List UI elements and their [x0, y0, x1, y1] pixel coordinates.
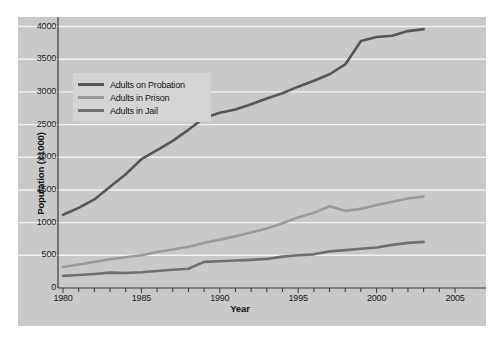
legend-swatch-icon	[78, 83, 104, 86]
legend-item: Adults in Jail	[78, 104, 205, 117]
axis-lines	[58, 17, 486, 288]
y-tick-label-3500: 3500	[10, 53, 56, 63]
x-tick-label-2000: 2000	[357, 293, 397, 303]
x-axis-title: Year	[180, 303, 300, 314]
y-tick-label-3000: 3000	[10, 86, 56, 96]
y-tick-label-0: 0	[10, 282, 56, 292]
legend-item-label: Adults on Probation	[110, 80, 185, 90]
y-tick-label-4000: 4000	[10, 21, 56, 31]
legend-item-label: Adults in Jail	[110, 106, 158, 116]
x-tick-label-1985: 1985	[121, 293, 161, 303]
y-tick-label-1000: 1000	[10, 217, 56, 227]
legend-swatch-icon	[78, 109, 104, 112]
legend-swatch-icon	[78, 96, 104, 99]
x-tick-label-1980: 1980	[43, 293, 83, 303]
chart-legend: Adults on ProbationAdults in PrisonAdult…	[73, 73, 211, 122]
y-axis-title: Population (x1000)	[35, 114, 46, 234]
series-line-adults-in-prison	[63, 196, 424, 267]
legend-item: Adults on Probation	[78, 78, 205, 91]
y-tick-label-1500: 1500	[10, 184, 56, 194]
x-tick-label-1990: 1990	[200, 293, 240, 303]
legend-item-label: Adults in Prison	[110, 93, 169, 103]
y-tick-label-2500: 2500	[10, 119, 56, 129]
x-tick-label-1995: 1995	[278, 293, 318, 303]
plot-svg-canvas	[0, 0, 502, 342]
data-series-group	[63, 29, 424, 276]
line-chart-figure: 05001000150020002500300035004000 1980198…	[0, 0, 502, 342]
gridlines-group	[18, 27, 486, 256]
legend-item: Adults in Prison	[78, 91, 205, 104]
x-tick-label-2005: 2005	[435, 293, 475, 303]
y-tick-label-2000: 2000	[10, 151, 56, 161]
y-tick-label-500: 500	[10, 249, 56, 259]
